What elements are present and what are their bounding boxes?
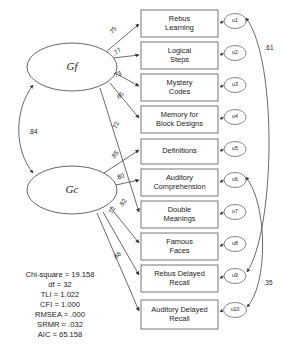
loading-coefficient: .80 xyxy=(114,171,125,181)
residual-label: u4 xyxy=(232,113,238,119)
fit-statistic-line: CFI = 1.000 xyxy=(40,300,80,309)
fit-statistics-block: Chi-square = 19.158df = 32TLI = 1.022CFI… xyxy=(25,270,94,339)
indicator-label: Auditory Delayed xyxy=(151,305,207,314)
latent-factor-Gc[interactable]: Gc xyxy=(27,166,117,214)
residual-path-u7 xyxy=(220,212,224,214)
indicator-box[interactable]: Memory forBlock Designs xyxy=(141,106,218,133)
indicator-box[interactable]: RebusLearning xyxy=(141,10,218,37)
path-diagram-canvas: RebusLearningLogicalStepsMysteryCodesMem… xyxy=(0,0,284,345)
residual-term-u9[interactable]: u9 xyxy=(224,269,246,284)
residual-label: u10 xyxy=(231,306,240,312)
indicator-label: Definitions xyxy=(162,146,197,155)
residual-term-u4[interactable]: u4 xyxy=(224,110,246,125)
indicator-box[interactable]: AuditoryComprehension xyxy=(141,169,218,196)
indicator-label: Meanings xyxy=(163,214,195,223)
residual-term-u10[interactable]: u10 xyxy=(224,303,247,318)
fit-statistic-line: AIC = 65.158 xyxy=(38,330,83,339)
loading-path-gc-i5 xyxy=(104,150,139,173)
indicator-label: Recall xyxy=(169,314,190,323)
indicator-label: Learning xyxy=(165,23,194,32)
indicator-label: Codes xyxy=(169,87,191,96)
indicator-label: Mystery xyxy=(167,78,193,87)
residual-path-u9 xyxy=(220,276,224,278)
residual-label: u6 xyxy=(232,176,238,182)
residual-label: u5 xyxy=(232,145,238,151)
loading-coefficient: .72 xyxy=(111,120,121,131)
residual-label: u7 xyxy=(232,208,238,214)
residual-term-u5[interactable]: u5 xyxy=(224,142,246,157)
indicator-box[interactable]: MysteryCodes xyxy=(141,74,218,101)
residual-label: u2 xyxy=(232,49,238,55)
indicator-label: Rebus Delayed xyxy=(154,269,205,278)
indicator-label: Memory for xyxy=(161,110,199,119)
loading-coefficient: .77 xyxy=(111,46,123,57)
loading-coefficient: .72 xyxy=(106,205,116,216)
indicator-box[interactable]: FamousFaces xyxy=(141,233,218,260)
latent-factor-Gf[interactable]: Gf xyxy=(27,43,117,91)
loading-coefficient: .75 xyxy=(107,24,118,36)
loading-path-gc-i10 xyxy=(97,213,139,311)
loading-path-gc-i6 xyxy=(116,180,139,185)
indicator-label: Block Designs xyxy=(156,119,203,128)
residual-path-u1 xyxy=(220,21,224,23)
residual-correlation-value: .61 xyxy=(265,44,274,51)
loading-path-gf-i4 xyxy=(110,83,139,118)
loading-path-gc-i9 xyxy=(103,212,139,275)
fit-statistic-line: TLI = 1.022 xyxy=(41,290,80,299)
residual-term-u1[interactable]: u1 xyxy=(224,14,246,29)
residual-path-u2 xyxy=(220,53,224,55)
fit-statistic-line: RMSEA = .000 xyxy=(35,310,85,319)
loading-coefficient: .82 xyxy=(117,197,128,209)
loading-path-gf-i2 xyxy=(113,55,139,58)
residual-paths xyxy=(220,21,224,312)
residual-path-u5 xyxy=(220,149,224,151)
residual-correlation-curve-u6-u10 xyxy=(246,177,263,307)
indicator-label: Auditory xyxy=(166,173,193,182)
residual-correlation-value: .35 xyxy=(264,279,273,286)
residual-term-u8[interactable]: u8 xyxy=(224,237,246,252)
indicator-label: Famous xyxy=(166,237,193,246)
residual-label: u8 xyxy=(232,240,238,246)
indicator-box[interactable]: LogicalSteps xyxy=(141,42,218,69)
latent-factors: GfGc xyxy=(27,43,117,214)
residual-label: u3 xyxy=(232,81,238,87)
indicator-label: Faces xyxy=(169,246,189,255)
residual-correlation-curve-u1-u9 xyxy=(246,18,269,272)
indicator-label: Comprehension xyxy=(153,182,205,191)
fit-statistic-line: SRMR = .032 xyxy=(37,320,83,329)
residual-terms: u1u2u3u4u5u6u7u8u9u10 xyxy=(224,14,247,318)
residual-path-u10 xyxy=(220,310,223,312)
residual-term-u7[interactable]: u7 xyxy=(224,205,246,220)
residual-term-u2[interactable]: u2 xyxy=(224,46,246,61)
residual-path-u6 xyxy=(220,180,224,182)
residual-term-u3[interactable]: u3 xyxy=(224,78,246,93)
loading-coefficient: .85 xyxy=(109,148,120,160)
indicator-box[interactable]: Auditory DelayedRecall xyxy=(141,300,218,329)
sem-diagram: RebusLearningLogicalStepsMysteryCodesMem… xyxy=(0,0,284,345)
indicator-label: Logical xyxy=(168,46,192,55)
loading-path-gc-i8 xyxy=(110,207,139,243)
residual-path-u3 xyxy=(220,85,224,87)
indicator-label: Double xyxy=(168,205,191,214)
indicator-label: Steps xyxy=(170,55,189,64)
indicator-label: Rebus xyxy=(169,14,191,23)
indicator-boxes: RebusLearningLogicalStepsMysteryCodesMem… xyxy=(141,10,218,329)
indicator-box[interactable]: Definitions xyxy=(141,139,218,164)
fit-statistic-line: Chi-square = 19.158 xyxy=(25,270,94,279)
residual-path-u8 xyxy=(220,244,224,246)
indicator-box[interactable]: Rebus DelayedRecall xyxy=(141,265,218,292)
residual-term-u6[interactable]: u6 xyxy=(224,173,246,188)
fit-statistic-line: df = 32 xyxy=(48,280,71,289)
loading-coefficient: .68 xyxy=(111,250,123,261)
indicator-box[interactable]: DoubleMeanings xyxy=(141,201,218,228)
residual-label: u9 xyxy=(232,272,238,278)
residual-label: u1 xyxy=(232,17,238,23)
factor-correlation-value: .84 xyxy=(29,128,38,135)
residual-path-u4 xyxy=(220,117,224,119)
factor-label: Gc xyxy=(66,183,79,195)
indicator-label: Recall xyxy=(169,278,190,287)
